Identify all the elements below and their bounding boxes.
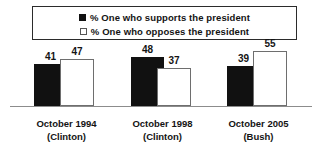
group-label-1994-main: October 1994 <box>36 118 96 129</box>
bar-value-oppose-1998: 37 <box>157 55 191 66</box>
bar-value-oppose-2005: 55 <box>253 38 287 49</box>
bar-chart: % One who supports the president % One w… <box>0 0 319 153</box>
group-label-2005-sub: (Bush) <box>206 130 311 143</box>
group-label-1994-sub: (Clinton) <box>14 130 119 143</box>
bar-oppose-1994 <box>60 59 94 106</box>
group-label-1998: October 1998 (Clinton) <box>110 117 215 143</box>
bar-oppose-2005 <box>253 51 287 106</box>
x-axis-baseline <box>10 106 312 107</box>
bar-value-support-1998: 48 <box>131 44 164 55</box>
bar-value-oppose-1994: 47 <box>60 46 94 57</box>
group-label-2005-main: October 2005 <box>228 118 288 129</box>
group-label-2005: October 2005 (Bush) <box>206 117 311 143</box>
plot-area: 41 47 October 1994 (Clinton) 48 37 Octob… <box>0 0 319 153</box>
group-label-1998-main: October 1998 <box>132 118 192 129</box>
bar-oppose-1998 <box>157 68 191 106</box>
group-label-1998-sub: (Clinton) <box>110 130 215 143</box>
group-label-1994: October 1994 (Clinton) <box>14 117 119 143</box>
